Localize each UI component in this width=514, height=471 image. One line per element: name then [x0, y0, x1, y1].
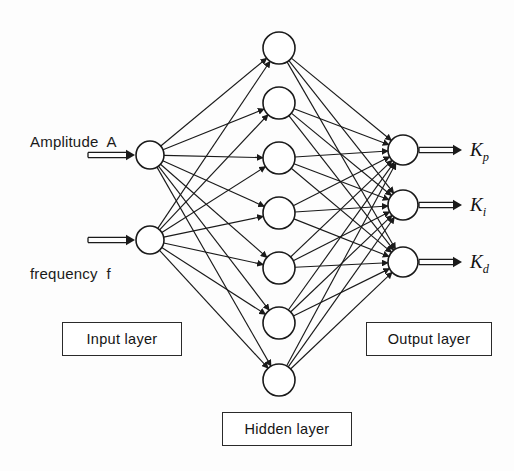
- output-layer-box: Output layer: [366, 322, 492, 356]
- output-arrow-2: [419, 257, 462, 267]
- output-subscript: p: [483, 150, 489, 164]
- input-label-1: frequency f: [30, 265, 111, 282]
- connection-line: [162, 248, 266, 315]
- input-neuron-1: [136, 226, 164, 254]
- hidden-neuron-2: [263, 142, 295, 174]
- input-neuron-0: [136, 141, 164, 169]
- hidden-layer-box: Hidden layer: [222, 412, 352, 446]
- hidden-neuron-3: [263, 197, 295, 229]
- output-symbol: K: [470, 139, 483, 160]
- output-neuron-0: [388, 135, 418, 165]
- input-arrow-1: [88, 235, 135, 245]
- connection-line: [289, 116, 394, 251]
- output-symbol: K: [470, 251, 483, 272]
- input-arrow-0: [88, 150, 135, 160]
- output-label-0: Kp: [470, 139, 489, 165]
- output-neuron-1: [388, 190, 418, 220]
- hidden-neuron-4: [263, 252, 295, 284]
- connection-line: [160, 115, 268, 230]
- connection-line: [164, 216, 264, 237]
- output-subscript: d: [483, 262, 489, 276]
- output-label-1: Ki: [470, 194, 486, 220]
- output-subscript: i: [483, 205, 486, 219]
- connection-line: [159, 166, 270, 310]
- neural-network-diagram: Amplitude Afrequency fKpKiKd Input layer…: [0, 0, 514, 471]
- output-neuron-2: [388, 247, 418, 277]
- connection-line: [287, 62, 395, 249]
- input-layer-box: Input layer: [62, 322, 182, 356]
- hidden-neuron-0: [263, 32, 295, 64]
- connection-line: [164, 243, 264, 265]
- connection-line: [164, 155, 263, 157]
- output-label-2: Kd: [470, 251, 489, 277]
- network-graphics: [0, 0, 514, 471]
- hidden-neuron-5: [263, 307, 295, 339]
- output-symbol: K: [470, 194, 483, 215]
- hidden-neuron-1: [263, 87, 295, 119]
- hidden-neuron-6: [263, 364, 295, 396]
- input-label-0: Amplitude A: [30, 133, 117, 150]
- connection-line: [163, 109, 264, 150]
- output-arrow-0: [419, 145, 462, 155]
- connection-line: [161, 164, 267, 257]
- connection-line: [293, 157, 389, 206]
- output-arrow-1: [419, 200, 462, 210]
- connection-line: [288, 162, 394, 310]
- connection-line: [291, 58, 391, 140]
